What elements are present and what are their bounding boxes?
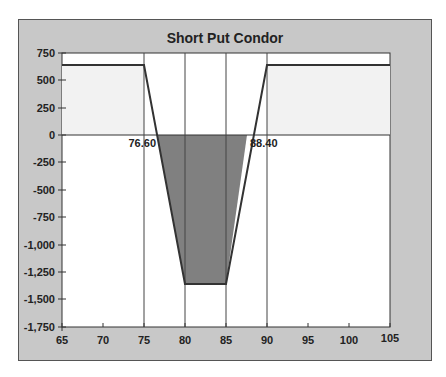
svg-text:-500: -500	[33, 184, 55, 196]
chart-plot: 76.60 88.40 750 500 250 0 -250 -500 -750…	[0, 0, 446, 377]
profit-region-right	[267, 65, 390, 135]
svg-text:-1,000: -1,000	[24, 239, 55, 251]
svg-text:-1,250: -1,250	[24, 266, 55, 278]
svg-text:0: 0	[49, 129, 55, 141]
breakeven-label-lower: 76.60	[128, 137, 156, 149]
svg-text:75: 75	[138, 334, 150, 346]
svg-text:500: 500	[37, 74, 55, 86]
svg-text:85: 85	[220, 334, 232, 346]
svg-text:90: 90	[261, 334, 273, 346]
svg-text:-1,750: -1,750	[24, 321, 55, 333]
profit-region-left	[62, 65, 144, 135]
svg-text:70: 70	[97, 334, 109, 346]
svg-text:80: 80	[179, 334, 191, 346]
svg-text:95: 95	[302, 334, 314, 346]
svg-text:750: 750	[37, 47, 55, 59]
svg-text:65: 65	[56, 334, 68, 346]
y-axis: 750 500 250 0 -250 -500 -750 -1,000 -1,2…	[24, 47, 66, 333]
svg-text:-250: -250	[33, 156, 55, 168]
svg-text:105: 105	[381, 332, 399, 344]
svg-text:-750: -750	[33, 211, 55, 223]
svg-text:100: 100	[340, 334, 358, 346]
breakeven-label-upper: 88.40	[250, 137, 278, 149]
svg-text:250: 250	[37, 102, 55, 114]
svg-text:-1,500: -1,500	[24, 293, 55, 305]
